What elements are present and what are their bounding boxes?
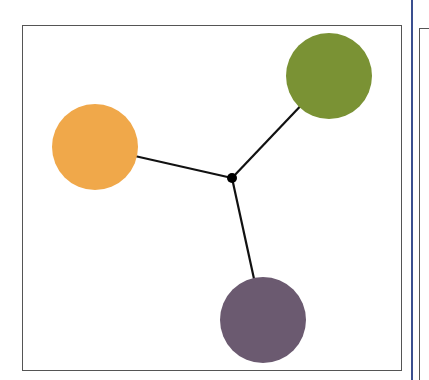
green-node: [286, 33, 372, 119]
nodes: [52, 33, 372, 363]
hub-dot: [227, 173, 237, 183]
edges: [95, 76, 329, 320]
purple-node: [220, 277, 306, 363]
orange-node: [52, 104, 138, 190]
hub-node: [227, 173, 237, 183]
